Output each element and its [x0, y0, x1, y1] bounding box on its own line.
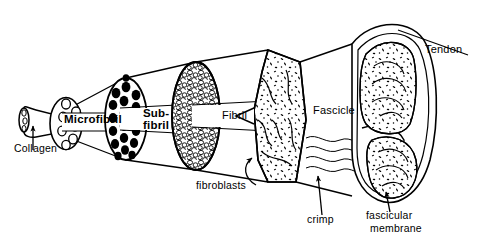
label-fascicle: Fascicle — [313, 105, 355, 117]
label-subfibril-line1: Sub- — [143, 108, 169, 120]
label-fibroblasts: fibroblasts — [196, 180, 246, 192]
label-fascicular-line1: fascicular — [366, 210, 412, 222]
tendon-structure — [352, 25, 436, 203]
label-tendon: Tendon — [425, 44, 462, 56]
label-collagen: Collagen — [14, 143, 57, 155]
label-fibril: Fibril — [222, 110, 247, 122]
crimp-leader — [318, 176, 322, 215]
label-microfibril: Microfibril — [64, 114, 122, 126]
tendon-structure-diagram: Collagen Microfibril Sub- fibril Fibril … — [0, 0, 495, 245]
label-crimp: crimp — [307, 214, 334, 226]
label-subfibril-line2: fibril — [143, 120, 169, 132]
label-fascicular-line2: membrane — [370, 223, 422, 235]
fibroblasts-leader — [246, 158, 256, 185]
tendon-fascicle-upper — [360, 43, 416, 134]
